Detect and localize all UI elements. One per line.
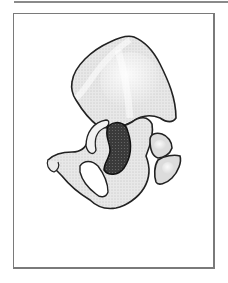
hip-bone-illustration — [0, 0, 228, 283]
ilium-wing — [72, 36, 176, 128]
bone-fragments — [150, 133, 181, 184]
